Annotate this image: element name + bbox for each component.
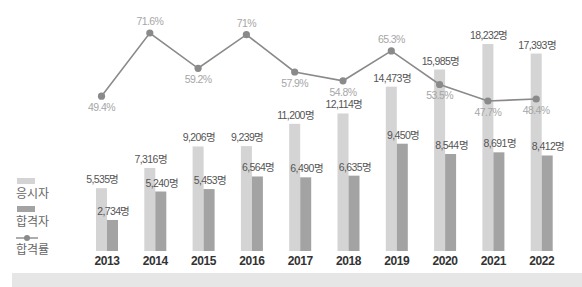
- bottom-caption-band: [12, 273, 582, 287]
- applicants-value-label: 9,206명: [183, 131, 216, 143]
- year-axis-label: 2015: [191, 254, 217, 268]
- applicants-value-label: 5,535명: [86, 173, 119, 185]
- year-axis-label: 2018: [336, 254, 362, 268]
- pass-rate-line: [102, 33, 537, 101]
- passers-bar: [493, 152, 504, 251]
- legend-passers-swatch: [17, 206, 35, 212]
- passers-bar: [445, 154, 456, 251]
- applicants-value-label: 7,316명: [134, 153, 167, 165]
- legend-passers-label: 합격자: [16, 215, 49, 229]
- passers-bar: [107, 220, 118, 251]
- pass-rate-marker: [388, 47, 395, 54]
- pass-rate-label: 54.8%: [330, 86, 357, 98]
- passers-value-label: 6,564명: [242, 161, 275, 173]
- applicants-value-label: 18,232명: [470, 29, 508, 41]
- passers-bar: [204, 189, 215, 251]
- year-axis-label: 2013: [94, 254, 120, 268]
- applicants-bar: [386, 87, 397, 251]
- applicants-bar: [96, 188, 107, 251]
- exam-results-chart: 5,535명2,734명20137,316명5,240명20149,206명5,…: [0, 0, 582, 287]
- applicants-value-label: 11,200명: [277, 109, 314, 121]
- passers-value-label: 9,450명: [387, 129, 420, 141]
- passers-bar: [300, 177, 311, 251]
- passers-bar: [397, 144, 408, 251]
- year-axis-label: 2021: [481, 254, 507, 268]
- pass-rate-marker: [339, 77, 346, 84]
- applicants-bar: [338, 113, 349, 251]
- pass-rate-marker: [243, 31, 250, 38]
- pass-rate-label: 48.4%: [523, 104, 550, 116]
- passers-value-label: 6,635명: [339, 161, 372, 173]
- legend-pass-rate-label: 합격률: [16, 243, 49, 257]
- applicants-value-label: 15,985명: [422, 55, 460, 67]
- year-axis-label: 2014: [143, 254, 169, 268]
- passers-bar: [252, 176, 263, 251]
- pass-rate-label: 47.7%: [475, 106, 502, 118]
- pass-rate-label: 65.3%: [378, 33, 405, 45]
- year-axis-label: 2020: [433, 254, 459, 268]
- pass-rate-marker: [291, 68, 298, 75]
- passers-value-label: 5,240명: [145, 177, 178, 189]
- passers-bar: [542, 155, 553, 251]
- passers-value-label: 6,490명: [290, 162, 323, 174]
- pass-rate-label: 49.4%: [88, 101, 115, 113]
- applicants-value-label: 17,393명: [518, 39, 556, 51]
- passers-value-label: 8,544명: [435, 139, 468, 151]
- pass-rate-marker: [195, 65, 202, 72]
- pass-rate-label: 57.9%: [281, 77, 308, 89]
- pass-rate-label: 71.6%: [136, 15, 163, 27]
- pass-rate-label: 53.5%: [426, 89, 453, 101]
- pass-rate-marker: [98, 93, 105, 100]
- year-axis-label: 2016: [239, 254, 265, 268]
- passers-bar: [349, 176, 360, 251]
- passers-value-label: 8,691명: [484, 137, 517, 149]
- pass-rate-marker: [436, 81, 443, 88]
- passers-value-label: 8,412명: [532, 140, 565, 152]
- passers-bar: [155, 192, 166, 251]
- applicants-value-label: 14,473명: [373, 72, 411, 84]
- pass-rate-marker: [484, 97, 491, 104]
- applicants-value-label: 12,114명: [325, 98, 362, 110]
- year-axis-label: 2019: [384, 254, 410, 268]
- applicants-bar: [193, 146, 204, 251]
- legend-applicants-label: 응시자: [16, 187, 49, 201]
- pass-rate-marker: [146, 29, 153, 36]
- applicants-value-label: 9,239명: [231, 131, 264, 143]
- applicants-bar: [289, 124, 300, 251]
- pass-rate-label: 59.2%: [185, 73, 212, 85]
- pass-rate-marker: [533, 95, 540, 102]
- legend-applicants-swatch: [17, 178, 35, 184]
- year-axis-label: 2022: [529, 254, 555, 268]
- passers-value-label: 2,734명: [97, 205, 130, 217]
- legend-pass-rate-marker-icon: [24, 235, 30, 241]
- pass-rate-label: 71%: [237, 17, 256, 29]
- passers-value-label: 5,453명: [194, 174, 227, 186]
- year-axis-label: 2017: [288, 254, 314, 268]
